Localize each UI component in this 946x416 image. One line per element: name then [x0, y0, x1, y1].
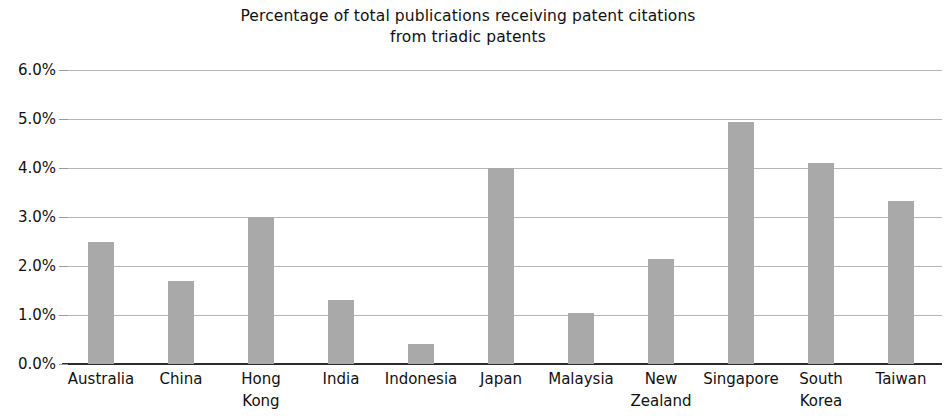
- y-axis-tick-label: 1.0%: [0, 308, 56, 323]
- bar: [888, 201, 914, 364]
- y-axis-tick-mark: [59, 217, 68, 218]
- bar: [648, 259, 674, 364]
- y-axis-tick-label: 2.0%: [0, 259, 56, 274]
- y-axis-tick-mark: [59, 119, 68, 120]
- y-axis-tick-label: 5.0%: [0, 112, 56, 127]
- bar: [88, 242, 114, 365]
- bar: [408, 344, 434, 364]
- y-axis-tick-mark: [59, 266, 68, 267]
- gridline: [62, 119, 942, 120]
- bar: [568, 313, 594, 364]
- y-axis-tick-mark: [59, 168, 68, 169]
- y-axis-tick-mark: [59, 364, 68, 365]
- bar: [728, 122, 754, 364]
- bar: [488, 168, 514, 364]
- y-axis-tick-label: 6.0%: [0, 63, 56, 78]
- plot-area: [62, 70, 942, 364]
- y-axis-tick-mark: [59, 315, 68, 316]
- bar: [248, 217, 274, 364]
- y-axis-tick-label: 3.0%: [0, 210, 56, 225]
- y-axis-tick-label: 4.0%: [0, 161, 56, 176]
- gridline: [62, 70, 942, 71]
- chart-title: Percentage of total publications receivi…: [0, 6, 936, 48]
- x-axis-tick-label: Taiwan: [846, 368, 946, 390]
- bar: [328, 300, 354, 364]
- bar: [168, 281, 194, 364]
- bar: [808, 163, 834, 364]
- y-axis-tick-mark: [59, 70, 68, 71]
